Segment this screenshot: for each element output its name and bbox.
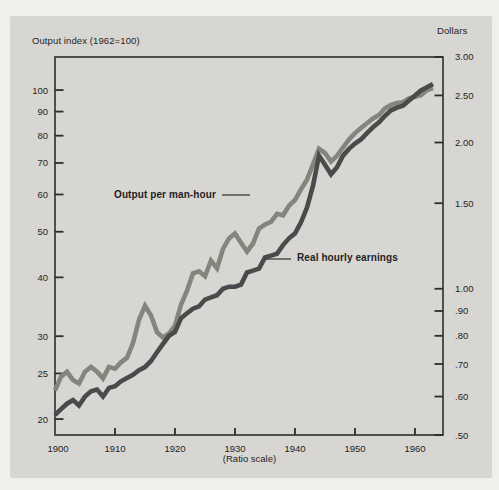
left-axis-tick-label: 70 [37, 157, 48, 168]
left-axis-tick-label: 40 [37, 272, 48, 283]
left-axis-tick-label: 80 [37, 130, 48, 141]
right-axis-tick-label: 3.00 [455, 51, 474, 62]
right-axis-tick-label: .50 [455, 430, 468, 441]
right-axis-tick-label: 2.00 [455, 137, 474, 148]
output-per-man-hour-line [55, 88, 433, 391]
chart-page: 1009080706050403025203.002.502.001.501.0… [0, 0, 499, 490]
right-axis-tick-label: .70 [455, 359, 468, 370]
right-axis-title: Dollars [437, 25, 467, 36]
ratio-scale-caption: (Ratio scale) [0, 453, 499, 464]
left-axis-tick-label: 90 [37, 106, 48, 117]
right-axis-tick-label: 1.00 [455, 283, 474, 294]
left-axis-tick-label: 30 [37, 331, 48, 342]
left-axis-tick-label: 100 [32, 85, 48, 96]
output-per-man-hour-label: Output per man-hour [114, 189, 216, 200]
left-axis-tick-label: 50 [37, 226, 48, 237]
right-axis-tick-label: 1.50 [455, 198, 474, 209]
left-axis-tick-label: 25 [37, 368, 48, 379]
left-axis-tick-label: 20 [37, 414, 48, 425]
left-axis-title: Output index (1962=100) [32, 35, 140, 46]
chart-canvas: 1009080706050403025203.002.502.001.501.0… [0, 0, 499, 490]
right-axis-tick-label: 2.50 [455, 90, 474, 101]
real-hourly-earnings-label: Real hourly earnings [297, 252, 398, 263]
right-axis-tick-label: .80 [455, 330, 468, 341]
right-axis-tick-label: .60 [455, 391, 468, 402]
left-axis-tick-label: 60 [37, 189, 48, 200]
right-axis-tick-label: .90 [455, 305, 468, 316]
